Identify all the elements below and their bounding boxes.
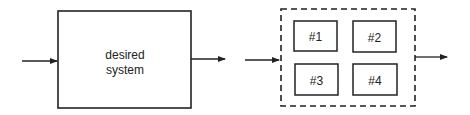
subsystem-label-3: #3 bbox=[310, 74, 324, 88]
desired-system-diagram: desired system bbox=[22, 11, 225, 108]
system-boundary-dashed bbox=[281, 9, 415, 106]
desired-label: desired bbox=[105, 48, 144, 62]
subsystem-label-4: #4 bbox=[368, 74, 382, 88]
diagram-canvas: desired system #1 #2 #3 #4 bbox=[0, 0, 470, 115]
subsystem-label-1: #1 bbox=[309, 30, 323, 44]
decomposed-system-diagram: #1 #2 #3 #4 bbox=[245, 9, 447, 106]
system-label: system bbox=[106, 63, 144, 77]
subsystem-label-2: #2 bbox=[368, 31, 382, 45]
